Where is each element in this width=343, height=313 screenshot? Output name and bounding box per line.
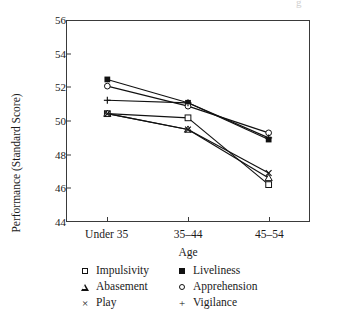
figure-chart: g 44464850525456 Performance (Standard S… bbox=[0, 0, 343, 313]
series-layer bbox=[67, 21, 309, 221]
legend-item-abasement: Abasement bbox=[80, 281, 177, 293]
x-tick-mark bbox=[107, 217, 108, 222]
legend-marker-square-open-icon bbox=[80, 266, 90, 276]
legend-marker-cross-x-icon: × bbox=[80, 298, 90, 308]
data-point-plus bbox=[104, 97, 111, 104]
legend-item-vigilance: +Vigilance bbox=[177, 297, 290, 309]
x-tick-label: Under 35 bbox=[85, 229, 128, 241]
legend-label: Liveliness bbox=[193, 265, 240, 277]
legend-label: Impulsivity bbox=[96, 265, 149, 277]
x-tick-label: 45–54 bbox=[255, 229, 284, 241]
data-point-circle-open bbox=[104, 83, 110, 89]
y-tick-label: 44 bbox=[32, 217, 73, 228]
legend-label: Abasement bbox=[96, 281, 148, 293]
chart-legend: ImpulsivityLivelinessAbasementApprehensi… bbox=[80, 263, 290, 311]
x-axis-title: Age bbox=[66, 246, 310, 258]
y-axis-title: Performance (Standard Score) bbox=[10, 93, 22, 232]
y-tick-label: 56 bbox=[32, 15, 73, 26]
legend-item-liveliness: Liveliness bbox=[177, 265, 290, 277]
data-point-square-open bbox=[266, 182, 272, 188]
legend-label: Play bbox=[96, 297, 116, 309]
y-tick-mark bbox=[66, 121, 71, 122]
plot-inner bbox=[67, 21, 309, 221]
y-tick-mark bbox=[66, 188, 71, 189]
page-bleed-glyph: g bbox=[296, 0, 302, 8]
legend-item-impulsivity: Impulsivity bbox=[80, 265, 177, 277]
legend-marker-triangle-open-icon bbox=[80, 282, 90, 292]
x-tick-label: 35–44 bbox=[174, 229, 203, 241]
y-tick-mark bbox=[66, 53, 71, 54]
legend-label: Vigilance bbox=[193, 297, 237, 309]
y-tick-mark bbox=[66, 87, 71, 88]
legend-item-play: ×Play bbox=[80, 297, 177, 309]
y-tick-mark bbox=[66, 154, 71, 155]
x-tick-mark bbox=[188, 217, 189, 222]
data-point-square-filled bbox=[104, 77, 110, 83]
legend-marker-circle-open-icon bbox=[177, 282, 187, 292]
legend-marker-plus-icon: + bbox=[177, 298, 187, 308]
data-point-square-open bbox=[185, 115, 191, 121]
x-tick-mark bbox=[269, 217, 270, 222]
series-impulsivity bbox=[104, 111, 271, 188]
legend-marker-square-filled-icon bbox=[177, 266, 187, 276]
legend-label: Apprehension bbox=[193, 281, 258, 293]
plot-area bbox=[66, 20, 310, 222]
legend-item-apprehension: Apprehension bbox=[177, 281, 290, 293]
